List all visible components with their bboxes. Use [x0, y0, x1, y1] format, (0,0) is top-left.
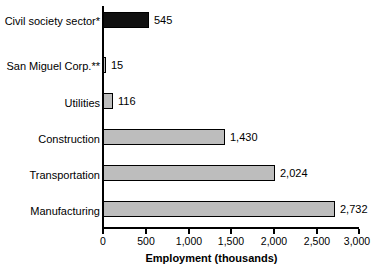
bar-value-civil-society-sector: 545: [154, 15, 172, 26]
bar-value-construction: 1,430: [230, 132, 258, 143]
x-tick-0: [102, 229, 104, 234]
x-tick-500: [145, 229, 147, 234]
bar-manufacturing: [103, 201, 335, 217]
x-tick-3000: [358, 229, 360, 234]
x-axis-title: Employment (thousands): [0, 252, 378, 264]
category-label-manufacturing: Manufacturing: [0, 206, 100, 217]
bar-value-utilities: 116: [118, 96, 136, 107]
bar-chart: Civil society sector* San Miguel Corp.**…: [0, 0, 378, 272]
y-axis-line: [102, 6, 104, 229]
bar-value-transportation: 2,024: [280, 168, 308, 179]
plot-area: 545 15 116 1,430 2,024 2,732: [103, 0, 361, 272]
bar-transportation: [103, 165, 275, 181]
category-label-construction: Construction: [0, 134, 100, 145]
x-tick-1000: [188, 229, 190, 234]
bar-value-manufacturing: 2,732: [340, 204, 368, 215]
bar-civil-society-sector: [103, 12, 149, 28]
x-tick-1500: [230, 229, 232, 234]
category-label-transportation: Transportation: [0, 170, 100, 181]
bar-construction: [103, 129, 225, 145]
category-label-san-miguel-corp: San Miguel Corp.**: [0, 61, 100, 72]
x-tick-label-3000: 3,000: [332, 236, 378, 247]
bar-value-san-miguel-corp: 15: [111, 60, 123, 71]
x-tick-2000: [273, 229, 275, 234]
category-label-utilities: Utilities: [0, 98, 100, 109]
category-label-civil-society-sector: Civil society sector*: [0, 16, 100, 27]
bar-utilities: [103, 93, 113, 109]
x-tick-2500: [316, 229, 318, 234]
